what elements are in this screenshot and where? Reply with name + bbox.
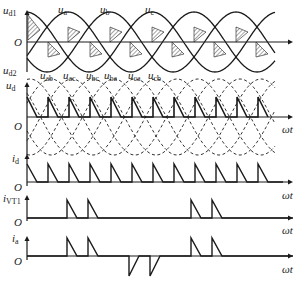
- ivt1-axis-label: iVT1: [3, 193, 21, 206]
- panel-id: [25, 154, 294, 186]
- omega-t-label: ωt: [282, 124, 293, 135]
- origin-label: O: [14, 37, 22, 48]
- omega-t-label: ωt: [282, 190, 293, 201]
- line-label-uab: uab: [40, 70, 53, 83]
- ud-axis-label: ud: [6, 80, 16, 93]
- ud2-axis-label: ud2: [3, 65, 17, 78]
- panel-ivt1: [25, 195, 294, 221]
- origin-label: O: [14, 182, 22, 193]
- ud1-axis-label: ud1: [3, 5, 17, 18]
- id-axis-label: id: [12, 153, 19, 166]
- omega-t-label: ωt: [282, 225, 293, 236]
- phase-label-ub: ub: [100, 4, 110, 17]
- waveform-diagram: [0, 0, 306, 288]
- ia-axis-label: ia: [12, 233, 19, 246]
- phase-label-uc: uc: [145, 4, 154, 17]
- phase-label-ua: ua: [58, 4, 67, 17]
- panel-ia: [25, 236, 294, 276]
- origin-label: O: [14, 256, 22, 267]
- origin-label: O: [14, 121, 22, 132]
- panel-ud1-ud2: [25, 10, 294, 72]
- line-label-ucb: ucb: [148, 70, 161, 83]
- origin-label: O: [14, 217, 22, 228]
- line-label-ubc: ubc: [86, 70, 99, 83]
- line-label-uba: uba: [104, 70, 117, 83]
- line-label-uac: uac: [63, 70, 76, 83]
- panel-ud: [25, 79, 294, 155]
- omega-t-label: ωt: [282, 264, 293, 275]
- line-label-uca: uca: [128, 70, 141, 83]
